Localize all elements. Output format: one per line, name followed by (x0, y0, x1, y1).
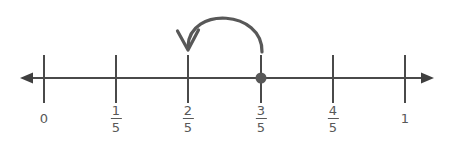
fraction-4-5-denominator: 5 (327, 120, 339, 134)
fraction-1-5-bar (111, 118, 122, 119)
fraction-3-5: 3 5 (255, 104, 267, 134)
number-line-figure: 0 1 5 2 5 3 5 4 5 1 (0, 0, 454, 148)
fraction-2-5-numerator: 2 (182, 104, 194, 118)
fraction-3-5-denominator: 5 (255, 120, 267, 134)
plotted-point (256, 73, 267, 84)
fraction-1-5-numerator: 1 (110, 104, 122, 118)
fraction-2-5: 2 5 (182, 104, 194, 134)
fraction-3-5-bar (256, 118, 267, 119)
tick-label-0: 0 (40, 112, 48, 125)
tick-label-2-5: 2 5 (182, 104, 194, 134)
fraction-4-5-bar (328, 118, 339, 119)
fraction-2-5-denominator: 5 (182, 120, 194, 134)
tick-label-1: 1 (401, 112, 409, 125)
tick-label-3-5: 3 5 (255, 104, 267, 134)
jump-arrow (178, 18, 263, 52)
fraction-1-5-denominator: 5 (110, 120, 122, 134)
fraction-2-5-bar (183, 118, 194, 119)
tick-label-1-5: 1 5 (110, 104, 122, 134)
jump-arrow-arc (188, 18, 262, 52)
fraction-3-5-numerator: 3 (255, 104, 267, 118)
fraction-4-5: 4 5 (327, 104, 339, 134)
tick-label-1-text: 1 (401, 111, 409, 126)
fraction-1-5: 1 5 (110, 104, 122, 134)
fraction-4-5-numerator: 4 (327, 104, 339, 118)
number-line-graphic (0, 0, 454, 148)
tick-label-0-text: 0 (40, 111, 48, 126)
tick-label-4-5: 4 5 (327, 104, 339, 134)
right-arrowhead-icon (421, 73, 434, 84)
left-arrowhead-icon (20, 73, 33, 84)
